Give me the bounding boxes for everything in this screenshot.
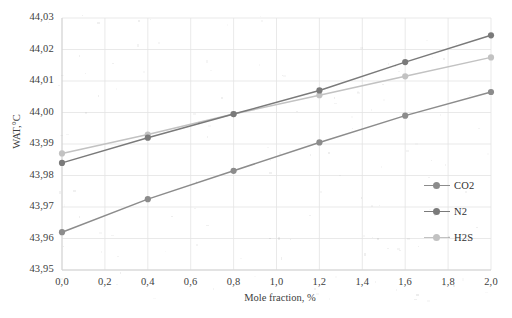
x-axis-tick-label: 0,8 — [214, 276, 254, 287]
data-point — [316, 87, 322, 93]
legend-item-n2[interactable]: N2 — [424, 198, 504, 224]
data-point — [488, 32, 494, 38]
data-point — [59, 150, 65, 156]
y-axis-tick-label: 43,97 — [8, 200, 54, 211]
x-axis-title: Mole fraction, % — [130, 292, 430, 303]
chart-figure: WAT,°C Mole fraction, % 43,9543,9643,974… — [0, 0, 512, 318]
legend-label: N2 — [454, 206, 467, 217]
y-axis-tick-label: 44,03 — [8, 11, 54, 22]
data-point — [145, 135, 151, 141]
data-point — [59, 229, 65, 235]
y-axis-tick-label: 44,02 — [8, 43, 54, 54]
chart-legend: CO2N2H2S — [424, 172, 504, 250]
data-point — [402, 113, 408, 119]
legend-item-co2[interactable]: CO2 — [424, 172, 504, 198]
x-axis-tick-label: 1,4 — [342, 276, 382, 287]
x-axis-tick-label: 1,6 — [385, 276, 425, 287]
legend-marker-icon — [424, 232, 450, 242]
x-axis-tick-label: 0,2 — [85, 276, 125, 287]
x-axis-tick-label: 0,4 — [128, 276, 168, 287]
data-point — [402, 73, 408, 79]
y-axis-tick-label: 44,00 — [8, 106, 54, 117]
data-point — [231, 168, 237, 174]
y-axis-tick-label: 43,99 — [8, 137, 54, 148]
legend-marker-icon — [424, 180, 450, 190]
x-axis-tick-label: 2,0 — [471, 276, 511, 287]
x-axis-tick-label: 1,2 — [299, 276, 339, 287]
data-point — [402, 59, 408, 65]
x-axis-tick-label: 0,0 — [42, 276, 82, 287]
data-point — [231, 111, 237, 117]
data-point — [145, 196, 151, 202]
legend-marker-icon — [424, 206, 450, 216]
y-axis-tick-label: 43,96 — [8, 232, 54, 243]
y-axis-tick-label: 44,01 — [8, 74, 54, 85]
data-point — [488, 54, 494, 60]
y-axis-title: WAT,°C — [11, 92, 22, 172]
x-axis-tick-label: 1,8 — [428, 276, 468, 287]
legend-label: CO2 — [454, 180, 474, 191]
data-point — [488, 89, 494, 95]
data-point — [59, 160, 65, 166]
chart-canvas — [0, 0, 512, 318]
y-axis-tick-label: 43,98 — [8, 169, 54, 180]
data-point — [316, 139, 322, 145]
legend-item-h2s[interactable]: H2S — [424, 224, 504, 250]
x-axis-tick-label: 1,0 — [257, 276, 297, 287]
x-axis-tick-label: 0,6 — [171, 276, 211, 287]
y-axis-tick-label: 43,95 — [8, 263, 54, 274]
legend-label: H2S — [454, 232, 473, 243]
